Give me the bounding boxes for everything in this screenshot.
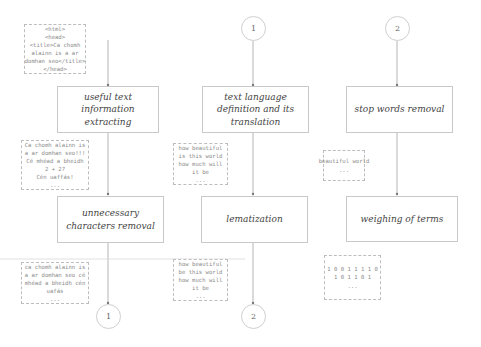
step-label: unnecessary characters removal <box>64 207 157 231</box>
note-line: mhéad a bheidh cén <box>25 279 86 287</box>
step-label: text language definition and its transla… <box>209 91 302 127</box>
step-text-extraction: useful text information extracting <box>57 86 159 133</box>
note-line: ... <box>195 292 205 300</box>
html-source-note: <html> <head> <title>Ca chomh alainn is … <box>24 24 86 74</box>
note-line: ca chomh alainn is <box>25 263 86 271</box>
extracted-text-note: Ca chomh alainn is a ar domhan seo!!! Cé… <box>21 140 89 190</box>
connector-label: 2 <box>251 312 256 321</box>
note-line: how much will <box>179 276 223 284</box>
note-line: Ca chomh alainn is <box>25 141 86 149</box>
note-line: is this world <box>179 152 223 160</box>
connector-label: 1 <box>106 312 111 321</box>
note-line: ... <box>195 176 205 184</box>
note-line: it be <box>192 284 209 292</box>
note-line: ... <box>347 282 357 290</box>
note-line: it be <box>192 168 209 176</box>
note-line: beautiful world <box>319 157 370 165</box>
step-lematization: lematization <box>201 196 308 243</box>
note-line: 1 0 1 1 0 1 <box>334 273 371 281</box>
note-line: Cén uaffás! <box>36 173 73 181</box>
step-character-removal: unnecessary characters removal <box>57 196 164 243</box>
note-line: a ar domhan seo cé <box>25 271 86 279</box>
step-label: stop words removal <box>355 103 445 115</box>
note-line: ... <box>50 181 60 189</box>
note-line: be this world <box>179 268 223 276</box>
connector-label: 1 <box>251 24 256 33</box>
step-label: useful text information extracting <box>64 91 152 127</box>
note-line: <head> <box>45 33 65 41</box>
connector-2-start: 2 <box>385 16 410 41</box>
note-line: alainn is a ar <box>31 49 78 57</box>
connector-1-end: 1 <box>96 304 121 329</box>
note-line: uafás <box>47 287 64 295</box>
step-language-translation: text language definition and its transla… <box>202 86 309 133</box>
connector-1-start: 1 <box>241 16 266 41</box>
note-line: ... <box>339 166 349 174</box>
note-line: </head> <box>43 65 67 73</box>
note-line: domhan seo</title> <box>25 57 86 65</box>
step-stop-words-removal: stop words removal <box>346 86 453 133</box>
filtered-words-note: beautiful world ... <box>323 150 365 181</box>
note-line: how much will <box>179 160 223 168</box>
note-line: <html> <box>45 25 65 33</box>
step-label: weighing of terms <box>361 213 444 225</box>
note-line: 2 + 2? <box>45 165 65 173</box>
note-line: how beautiful <box>179 144 223 152</box>
lemmatized-text-note: how beautiful be this world how much wil… <box>173 259 228 301</box>
note-line: a ar domhan seo!!! <box>25 149 86 157</box>
term-vector-note: 1 0 0 1 1 1 1 0 1 0 1 1 0 1 ... <box>324 255 381 300</box>
connector-2-end: 2 <box>241 304 266 329</box>
step-label: lematization <box>226 213 282 225</box>
pipeline-diagram: <html> <head> <title>Ca chomh alainn is … <box>0 0 481 347</box>
connector-label: 2 <box>395 24 400 33</box>
step-term-weighting: weighing of terms <box>346 196 458 242</box>
note-line: how beautiful <box>179 260 223 268</box>
note-line: Cé mhéad a bheidh <box>26 157 83 165</box>
note-line: 1 0 0 1 1 1 1 0 <box>327 265 378 273</box>
note-line: ... <box>50 295 60 303</box>
translated-text-note: how beautiful is this world how much wil… <box>173 143 228 185</box>
cleaned-text-note: ca chomh alainn is a ar domhan seo cé mh… <box>21 262 89 304</box>
note-line: <title>Ca chomh <box>30 41 81 49</box>
